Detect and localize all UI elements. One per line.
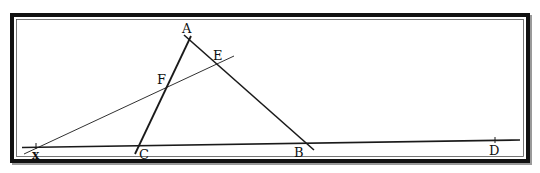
side-AB — [184, 35, 314, 150]
label-D: D — [489, 143, 499, 158]
label-E: E — [213, 48, 223, 63]
side-CA — [135, 36, 191, 154]
baseline-xD — [22, 140, 520, 148]
label-x: x — [32, 148, 40, 162]
label-B: B — [294, 145, 304, 160]
transversal-xFE — [24, 56, 234, 154]
label-F: F — [157, 72, 166, 87]
label-A: A — [181, 21, 192, 36]
geometry-diagram: A E F x C B D — [0, 0, 540, 173]
label-C: C — [139, 147, 149, 162]
